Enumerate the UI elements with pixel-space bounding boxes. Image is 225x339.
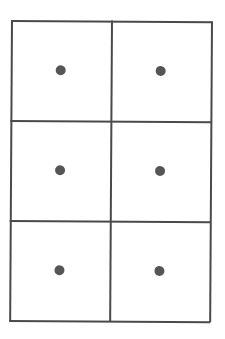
grid-cell-r3-c1 [9, 220, 110, 321]
grid-cell-r1-c1 [10, 20, 111, 121]
dot-marker [155, 166, 165, 176]
dot-marker [156, 66, 166, 76]
dot-grid-diagram [9, 20, 211, 321]
dot-marker [154, 266, 164, 276]
grid-cell-r1-c2 [110, 21, 211, 122]
grid-cell-r3-c2 [109, 221, 210, 322]
grid-cell-r2-c1 [10, 120, 111, 221]
dot-marker [55, 165, 65, 175]
dot-marker [54, 265, 64, 275]
grid-cell-r2-c2 [110, 121, 211, 222]
dot-marker [56, 65, 66, 75]
